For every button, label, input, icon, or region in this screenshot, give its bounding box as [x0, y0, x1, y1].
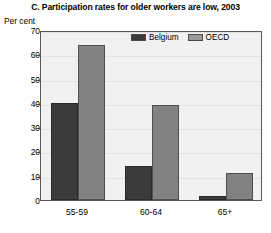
x-tick-label: 65+ — [188, 207, 262, 217]
legend-entry-oecd: OECD — [188, 33, 230, 42]
y-tick-label: 30 — [6, 124, 40, 132]
bar-oecd-65+ — [226, 173, 253, 200]
bar-belgium-55-59 — [51, 103, 78, 200]
bar-group — [115, 32, 189, 200]
y-tick-label: 0 — [6, 197, 40, 205]
dark-gray-swatch — [131, 34, 146, 41]
legend-label: OECD — [206, 33, 230, 42]
y-tick-label: 50 — [6, 76, 40, 84]
bar-belgium-60-64 — [125, 166, 152, 200]
bar-oecd-55-59 — [78, 45, 105, 200]
bar-group — [41, 32, 115, 200]
x-tick-label: 55-59 — [40, 207, 114, 217]
y-axis: 010203040506070 — [0, 0, 40, 233]
chart-title: C. Participation rates for older workers… — [0, 2, 271, 12]
y-tick-label: 70 — [6, 27, 40, 35]
legend-entry-belgium: Belgium — [131, 33, 179, 42]
light-gray-swatch — [188, 34, 203, 41]
y-tick-label: 60 — [6, 51, 40, 59]
y-tick-label: 40 — [6, 100, 40, 108]
y-tick-label: 20 — [6, 148, 40, 156]
x-tick-label: 60-64 — [114, 207, 188, 217]
plot-area — [40, 31, 262, 201]
bar-belgium-65+ — [199, 196, 226, 200]
chart-legend: BelgiumOECD — [131, 33, 229, 42]
bar-oecd-60-64 — [152, 105, 179, 200]
bar-group — [189, 32, 263, 200]
legend-label: Belgium — [149, 33, 179, 42]
y-tick-label: 10 — [6, 173, 40, 181]
bars-layer — [41, 32, 261, 200]
bar-chart-figure: C. Participation rates for older workers… — [0, 0, 271, 233]
